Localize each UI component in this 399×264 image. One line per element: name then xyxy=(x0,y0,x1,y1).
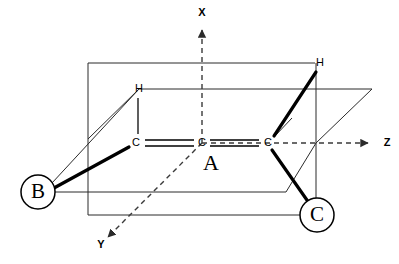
atom-label-h-right: H xyxy=(316,56,324,68)
axis-y-line xyxy=(108,143,202,237)
bond-c-right-c-node xyxy=(272,150,309,203)
bond-c-right-h-right xyxy=(274,72,316,136)
axis-z-label: Z xyxy=(384,136,391,148)
substituent-b-label: B xyxy=(31,179,45,203)
atom-label-h-left: H xyxy=(135,82,143,94)
atom-label-c-left: C xyxy=(132,136,140,148)
substituent-c: C xyxy=(300,198,334,232)
atom-label-c-center: C xyxy=(198,136,206,148)
right-plane-outline xyxy=(274,63,372,215)
left-plane-outline xyxy=(52,63,372,215)
center-annotation-label: A xyxy=(203,150,219,175)
substituent-c-label: C xyxy=(310,202,324,226)
allene-stereochemistry-diagram: C C C H H B C X Y Z A xyxy=(0,0,399,264)
atom-label-c-right: C xyxy=(264,136,272,148)
double-bond-left xyxy=(145,140,194,146)
diagram-canvas: C C C H H B C X Y Z A xyxy=(0,0,399,264)
bond-c-left-b xyxy=(54,147,129,188)
bond-group xyxy=(54,72,316,203)
axis-y-label: Y xyxy=(97,238,105,250)
axis-x-label: X xyxy=(198,6,206,18)
substituent-b: B xyxy=(21,175,55,209)
